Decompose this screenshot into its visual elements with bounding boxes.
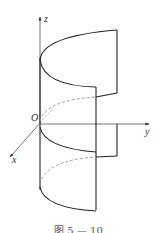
top-curve <box>40 30 117 60</box>
hidden-upper-curve <box>40 97 96 121</box>
x-axis-hidden <box>40 110 52 123</box>
solid-edges <box>40 30 117 211</box>
y-axis-label: y <box>145 127 149 137</box>
right-back-connect <box>96 93 117 97</box>
x-axis-label: x <box>12 155 16 165</box>
origin-label: O <box>31 113 38 123</box>
hidden-lower-curve <box>40 157 96 184</box>
x-axis <box>10 123 40 157</box>
front-top-curve <box>40 60 96 87</box>
right-lower-connect <box>96 156 117 157</box>
solid-figure <box>0 0 157 233</box>
z-axis-label: z <box>44 14 48 24</box>
hidden-edges <box>40 97 96 184</box>
bottom-curve <box>40 187 96 211</box>
middle-curve <box>40 127 96 152</box>
coordinate-axes <box>10 17 149 157</box>
figure-caption: 图 5 — 10 <box>0 226 157 233</box>
